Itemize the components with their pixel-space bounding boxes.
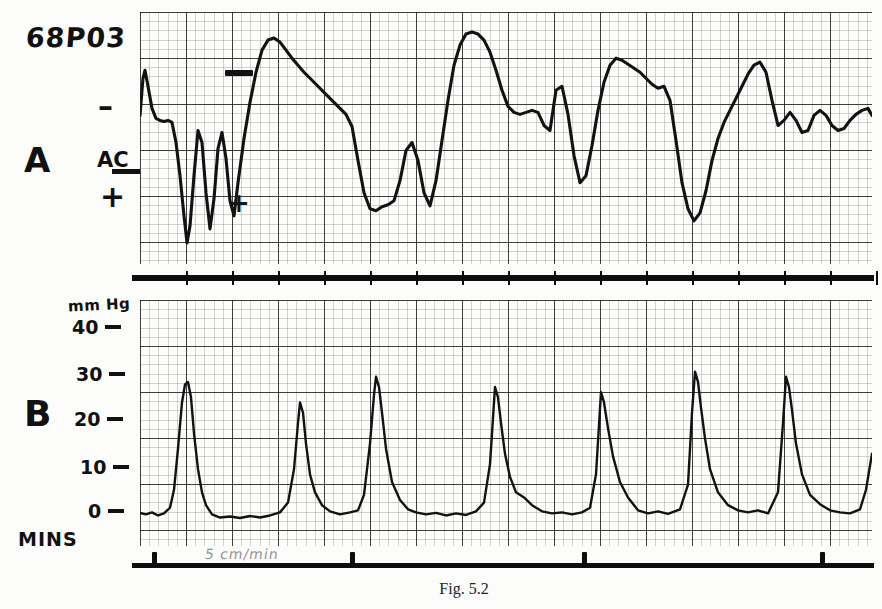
panel-b-trace-line [140,372,872,518]
panel-separator-bar [132,275,874,281]
y-axis-tick-40-text: 40 [72,316,98,338]
separator-time-pip [600,271,602,285]
time-axis-label: MINS [18,528,78,550]
separator-time-pip [554,271,556,285]
separator-time-pip [232,271,234,285]
figure-root: 68P03 A – AC + + B mm Hg 40 30 20 10 0 [0,0,882,609]
separator-time-pip [416,271,418,285]
tick-dash-icon [108,509,124,513]
separator-time-pip [370,271,372,285]
figure-caption: Fig. 5.2 [0,580,882,598]
chart-speed-annotation: 5 cm/min [204,546,280,562]
panel-a-trace-svg [140,12,872,264]
separator-time-pip [692,271,694,285]
panel-a-polarity-minus-label: – [98,100,114,112]
panel-b-chart [140,300,872,546]
time-axis-minute-tick [350,552,355,566]
y-axis-tick-20-text: 20 [74,408,100,430]
time-axis-minute-tick [820,552,825,566]
tick-dash-icon [107,417,123,421]
y-axis-tick-10-text: 10 [80,456,106,478]
separator-time-pip [784,271,786,285]
separator-time-pip [186,271,188,285]
time-axis-minute-tick [152,552,157,566]
time-axis-minute-tick [582,552,587,566]
time-axis-bar [132,563,874,568]
panel-b-trace-svg [140,300,872,546]
panel-a-calibration-bar [225,70,253,76]
panel-a-label: A [24,140,51,180]
panel-a-trace-line [140,32,872,243]
separator-time-pip [646,271,648,285]
figure-caption-text: Fig. 5.2 [439,580,488,597]
panel-a-polarity-plus-label: + [100,190,126,204]
separator-time-pip [876,271,878,285]
panel-a-plus-marker: + [228,188,250,218]
y-axis-tick-0: 0 [88,500,124,522]
y-axis-tick-0-text: 0 [88,500,101,522]
y-axis-tick-30: 30 [76,363,125,385]
tick-dash-icon [113,465,129,469]
separator-time-pip [278,271,280,285]
y-axis-tick-20: 20 [74,408,123,430]
separator-time-pip [462,271,464,285]
y-axis-tick-40: 40 [72,316,121,338]
separator-time-pip [738,271,740,285]
panel-a-chart: + [140,12,872,264]
panel-b-label: B [24,393,52,434]
y-axis-tick-30-text: 30 [76,363,102,385]
record-id-label: 68P03 [25,22,127,53]
separator-time-pip [508,271,510,285]
y-axis-tick-10: 10 [80,456,129,478]
separator-time-pip [324,271,326,285]
separator-time-pip [830,271,832,285]
panel-b-units-label: mm Hg [68,294,131,315]
tick-dash-icon [109,372,125,376]
tick-dash-icon [105,325,121,329]
